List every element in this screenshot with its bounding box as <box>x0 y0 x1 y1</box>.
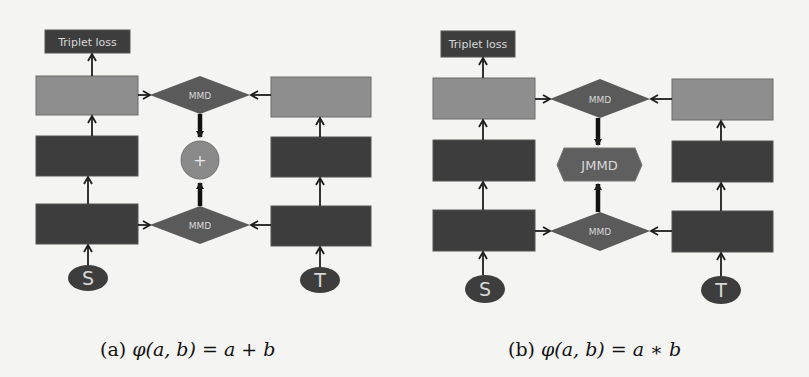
source-fc-layer-b <box>433 78 535 119</box>
diagram-canvas: Triplet loss S T MMD MMD + <box>0 0 809 377</box>
source-conv-layer-2-b <box>433 140 535 181</box>
triplet-loss-label: Triplet loss <box>57 36 117 49</box>
mmd-top-diamond-b: MMD <box>550 79 650 118</box>
target-node-a: T <box>300 267 340 293</box>
mmd-bottom-diamond-b: MMD <box>550 212 650 251</box>
source-conv-layer-1-a <box>36 204 138 244</box>
target-label: T <box>313 269 326 291</box>
caption-b: (b) φ(a, b) = a ∗ b <box>508 338 681 360</box>
source-node-b: S <box>465 275 505 303</box>
source-label: S <box>82 267 94 289</box>
sum-combiner-a: + <box>181 141 219 179</box>
mmd-bottom-diamond-a: MMD <box>150 206 250 244</box>
mmd-bottom-label: MMD <box>189 221 212 231</box>
caption-b-prefix: (b) <box>508 338 535 360</box>
jmmd-label: JMMD <box>580 158 617 173</box>
source-conv-layer-2-a <box>36 136 138 176</box>
target-conv-layer-1-b <box>672 211 773 252</box>
jmmd-combiner-b: JMMD <box>557 148 642 181</box>
source-label: S <box>479 278 491 300</box>
mmd-top-diamond-a: MMD <box>150 76 250 114</box>
triplet-loss-node-b: Triplet loss <box>441 31 515 57</box>
triplet-loss-label: Triplet loss <box>448 38 508 51</box>
target-conv-layer-1-a <box>271 206 371 246</box>
mmd-top-label: MMD <box>189 91 212 101</box>
target-conv-layer-2-b <box>672 141 773 182</box>
target-fc-layer-a <box>271 77 371 117</box>
panel-b: Triplet loss S T MMD MMD JMMD <box>433 31 773 304</box>
target-conv-layer-2-a <box>271 137 371 177</box>
source-fc-layer-a <box>36 76 138 115</box>
caption-a: (a) φ(a, b) = a + b <box>100 338 275 360</box>
source-conv-layer-1-b <box>433 210 535 251</box>
target-node-b: T <box>701 276 741 304</box>
plus-icon: + <box>193 151 206 170</box>
panel-a: Triplet loss S T MMD MMD + <box>36 30 371 293</box>
triplet-loss-node-a: Triplet loss <box>45 30 130 53</box>
caption-b-formula: φ(a, b) = a ∗ b <box>541 338 681 360</box>
source-node-a: S <box>68 265 108 291</box>
caption-a-formula: φ(a, b) = a + b <box>132 338 275 360</box>
caption-a-prefix: (a) <box>100 338 126 360</box>
target-fc-layer-b <box>672 79 773 120</box>
target-label: T <box>714 279 727 301</box>
mmd-bottom-label: MMD <box>589 227 612 237</box>
mmd-top-label: MMD <box>589 95 612 105</box>
